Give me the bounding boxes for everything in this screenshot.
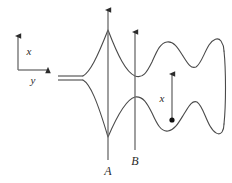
double-line-stem (58, 76, 83, 80)
figure-canvas: x y A B x (0, 0, 232, 183)
axis-indicator: x y (18, 36, 48, 86)
y-axis-label: y (30, 74, 36, 86)
wave-envelope-figure: x y A B x (0, 0, 232, 183)
displacement-point-dot (169, 117, 174, 122)
upper-envelope-curve (83, 30, 224, 77)
marker-a-label: A (103, 164, 112, 178)
displacement-label: x (159, 92, 165, 104)
marker-b-label: B (131, 154, 139, 168)
marker-arrow-b: B (131, 32, 139, 168)
lower-envelope-curve (83, 80, 224, 137)
x-axis-label: x (26, 45, 32, 57)
marker-arrow-a: A (103, 10, 112, 178)
displacement-measurement: x (159, 74, 175, 123)
right-closure-curve (224, 51, 226, 124)
